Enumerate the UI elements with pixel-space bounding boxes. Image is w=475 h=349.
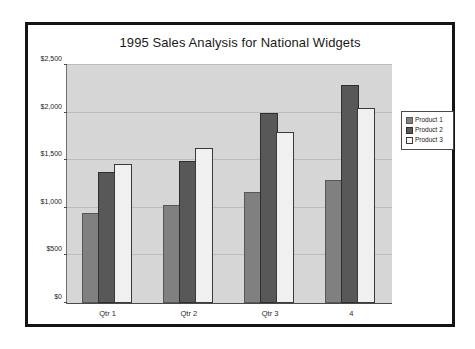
y-axis-tick-label: $1,000 [41, 197, 62, 204]
bar-product-3[interactable] [357, 108, 375, 303]
legend-item[interactable]: Product 1 [406, 116, 450, 125]
bar-group-bars [311, 65, 392, 303]
legend-item-label: Product 2 [415, 127, 443, 134]
chart-legend: Product 1Product 2Product 3 [401, 111, 454, 150]
bar-group: 4 [311, 65, 392, 303]
bar-group: Qtr 1 [67, 65, 148, 303]
x-axis-tick-label: Qtr 3 [230, 309, 311, 318]
x-axis-tick-label: Qtr 1 [67, 309, 148, 318]
x-axis-tick-label: Qtr 2 [148, 309, 229, 318]
legend-item-label: Product 3 [415, 137, 443, 144]
slide-frame: 1995 Sales Analysis for National Widgets… [25, 22, 455, 327]
bar-product-3[interactable] [195, 148, 213, 303]
legend-item[interactable]: Product 3 [406, 136, 450, 145]
y-axis-tick-label: $500 [46, 245, 62, 252]
legend-swatch-product-3-icon [406, 137, 413, 144]
y-axis-tick-label: $2,500 [41, 55, 62, 62]
legend-swatch-product-2-icon [406, 127, 413, 134]
x-axis-tick-label: 4 [311, 309, 392, 318]
bar-group-bars [148, 65, 229, 303]
legend-item-label: Product 1 [415, 117, 443, 124]
bar-group: Qtr 2 [148, 65, 229, 303]
chart-title: 1995 Sales Analysis for National Widgets [28, 35, 452, 50]
bar-group-bars [230, 65, 311, 303]
y-axis-tick-label: $1,500 [41, 150, 62, 157]
bar-product-3[interactable] [276, 132, 294, 303]
bar-group-bars [67, 65, 148, 303]
bar-group: Qtr 3 [230, 65, 311, 303]
y-axis-tick-label: $2,000 [41, 102, 62, 109]
chart-plot-area: $0$500$1,000$1,500$2,000$2,500 Qtr 1Qtr … [66, 65, 392, 304]
legend-swatch-product-1-icon [406, 117, 413, 124]
bar-product-3[interactable] [114, 164, 132, 303]
y-axis-tick-label: $0 [54, 293, 62, 300]
legend-item[interactable]: Product 2 [406, 126, 450, 135]
